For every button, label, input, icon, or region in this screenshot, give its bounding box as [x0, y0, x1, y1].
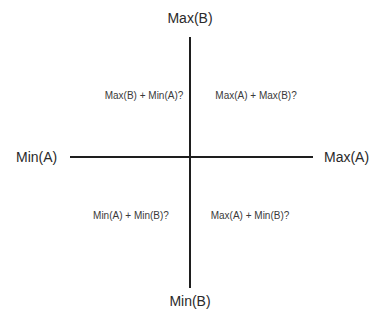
- quadrant-label-bottom-right: Max(A) + Min(B)?: [211, 210, 290, 221]
- horizontal-axis-line: [70, 156, 313, 158]
- vertical-axis-line: [189, 37, 191, 288]
- quadrant-label-bottom-left: Min(A) + Min(B)?: [93, 210, 169, 221]
- quadrant-label-top-right: Max(A) + Max(B)?: [215, 90, 296, 101]
- axis-label-max-b: Max(B): [167, 10, 212, 26]
- axis-label-min-a: Min(A): [16, 149, 57, 165]
- axis-label-min-b: Min(B): [169, 293, 210, 309]
- axis-label-max-a: Max(A): [324, 149, 369, 165]
- quadrant-label-top-left: Max(B) + Min(A)?: [105, 90, 184, 101]
